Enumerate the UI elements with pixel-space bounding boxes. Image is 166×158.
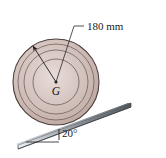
mechanics-figure: 180 mm 20° G [0,0,166,158]
center-of-gravity-label: G [52,85,61,97]
incline-angle-label: 20° [62,127,77,139]
radius-dimension-label: 180 mm [87,20,124,32]
figure-canvas: 180 mm 20° G [0,0,166,158]
